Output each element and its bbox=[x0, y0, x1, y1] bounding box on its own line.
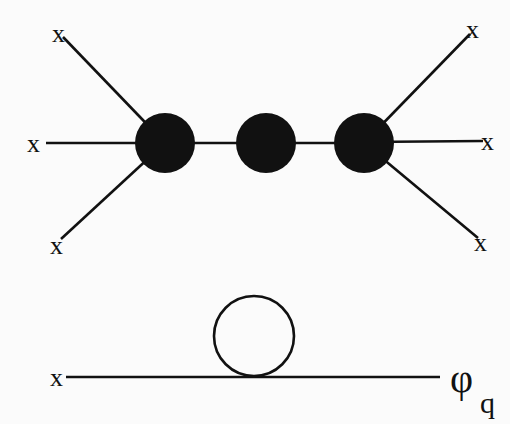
top-diagram: x x x x x x bbox=[27, 15, 494, 260]
label-x-mid-left: x bbox=[27, 129, 40, 158]
blob-2 bbox=[236, 113, 296, 173]
label-x-mid-right: x bbox=[481, 127, 494, 156]
label-phi: φ bbox=[450, 356, 473, 401]
diagram-canvas: x x x x x x x φ q bbox=[0, 0, 510, 424]
bottom-diagram: x φ q bbox=[50, 296, 495, 419]
label-phi-subscript: q bbox=[480, 386, 495, 419]
label-x-top-right: x bbox=[466, 15, 479, 44]
tadpole-loop bbox=[214, 296, 294, 376]
label-x-bottom: x bbox=[50, 363, 63, 392]
label-x-bottom-left: x bbox=[50, 231, 63, 260]
label-x-top-left: x bbox=[52, 19, 65, 48]
blob-1 bbox=[135, 113, 195, 173]
blob-3 bbox=[334, 113, 394, 173]
label-x-bottom-right: x bbox=[474, 228, 487, 257]
